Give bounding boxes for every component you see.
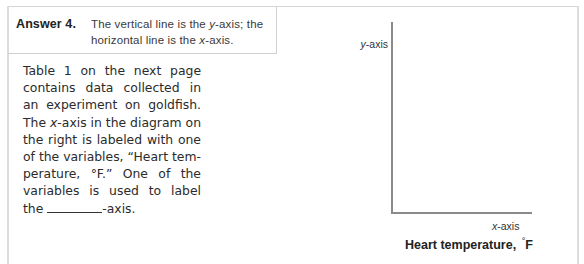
- answer-text: The vertical line is the y-axis; the hor…: [91, 16, 277, 48]
- y-axis-suffix: -axis: [366, 38, 388, 50]
- y-axis-label: y-axis: [361, 38, 388, 50]
- answer-label: Answer 4.: [16, 17, 76, 31]
- question-paragraph: Table 1 on the next page contains data c…: [23, 62, 201, 217]
- x-variable-unit: F: [525, 238, 533, 252]
- x-axis-suffix: -axis: [497, 220, 519, 232]
- x-variable-name: Heart temperature,: [405, 238, 516, 252]
- x-axis-label: x-axis: [492, 220, 519, 232]
- answer-text-part1: The vertical line is the: [91, 18, 209, 30]
- page-frame-right-border: [577, 6, 579, 264]
- y-axis-line: [391, 22, 393, 214]
- x-variable-label: Heart temperature, °F: [405, 236, 533, 252]
- x-axis-line: [391, 212, 532, 214]
- question-text-part3: -axis.: [102, 201, 135, 216]
- answer-blank[interactable]: [47, 200, 102, 213]
- answer-text-part3: -axis.: [205, 34, 233, 46]
